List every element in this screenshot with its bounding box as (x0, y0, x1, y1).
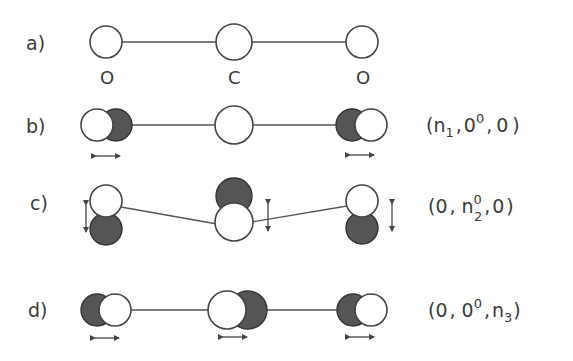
oxygen-atom-left (81, 109, 113, 141)
mode-label-b: (n1,00,0) (426, 111, 520, 140)
co2-vibrational-modes-diagram: a) O C O b) (n1,00,0) c) (0, 0, 573, 361)
row-b: b) (n1,00,0) (26, 106, 520, 156)
mode-label-d: (0,00,n3) (428, 296, 521, 325)
oxygen-atom-right (346, 185, 378, 217)
row-c: c) (0,n02,0) (30, 178, 514, 245)
carbon-atom (215, 203, 253, 241)
oxygen-atom-left (99, 294, 131, 326)
row-label-a: a) (26, 32, 45, 54)
row-label-c: c) (30, 192, 48, 214)
carbon-atom (215, 106, 253, 144)
oxygen-atom-right (346, 26, 378, 58)
mode-label-c: (0,n02,0) (428, 192, 514, 224)
atom-label-c: C (228, 67, 241, 88)
oxygen-displaced-left (90, 213, 122, 245)
row-d: d) (0,00,n3) (28, 291, 521, 338)
row-a: a) O C O (26, 24, 378, 88)
oxygen-atom-left (90, 26, 122, 58)
bond-left (121, 207, 217, 224)
carbon-atom (208, 291, 246, 329)
oxygen-atom-right (355, 294, 387, 326)
atom-label-o-left: O (100, 67, 114, 88)
bond-right (252, 206, 347, 222)
carbon-atom (216, 24, 252, 60)
row-label-d: d) (28, 299, 47, 321)
oxygen-atom-right (355, 109, 387, 141)
oxygen-atom-left (90, 185, 122, 217)
row-label-b: b) (26, 115, 45, 137)
atom-label-o-right: O (356, 67, 370, 88)
